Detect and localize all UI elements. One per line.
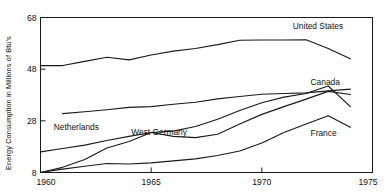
y-tick-label: 28 xyxy=(27,116,37,126)
chart-canvas: Energy Consumption in Millions of Btu's … xyxy=(0,0,386,192)
series-label-netherlands: Netherlands xyxy=(54,122,99,132)
x-tick-label: 1975 xyxy=(358,177,377,187)
y-axis-title: Energy Consumption in Millions of Btu's xyxy=(4,36,13,170)
series-label-france: France xyxy=(311,128,337,138)
series-label-west-germany: West Germany xyxy=(131,127,188,137)
series-label-canada: Canada xyxy=(311,77,341,87)
x-tick-label: 1970 xyxy=(252,177,271,187)
x-tick-label: 1960 xyxy=(37,177,56,187)
series-label-united-states: United States xyxy=(293,21,343,31)
y-tick-label: 68 xyxy=(27,13,37,23)
energy-consumption-line-chart: Energy Consumption in Millions of Btu's … xyxy=(0,0,386,192)
y-tick-label: 48 xyxy=(27,64,37,74)
x-tick-label: 1965 xyxy=(142,177,161,187)
